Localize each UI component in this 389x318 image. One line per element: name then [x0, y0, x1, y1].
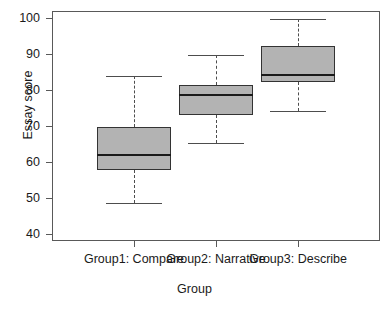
y-axis-tick [46, 18, 52, 19]
median-line [179, 94, 253, 96]
whisker-cap-upper [106, 76, 162, 77]
box-iqr-rect[interactable] [97, 127, 171, 170]
whisker-cap-lower [270, 111, 326, 112]
x-axis-tick [216, 241, 217, 247]
whisker-lower [216, 115, 217, 143]
whisker-upper [298, 19, 299, 46]
box-iqr-rect[interactable] [261, 46, 335, 82]
y-axis-tick-label: 90 [0, 47, 40, 61]
y-axis-tick-label: 100 [0, 11, 40, 25]
y-axis-tick-label: 70 [0, 119, 40, 133]
whisker-cap-upper [270, 19, 326, 20]
whisker-lower [298, 82, 299, 111]
whisker-cap-lower [188, 143, 244, 144]
y-axis-tick [46, 90, 52, 91]
median-line [97, 154, 171, 156]
whisker-lower [134, 170, 135, 203]
y-axis-tick-label: 80 [0, 83, 40, 97]
x-axis-tick [298, 241, 299, 247]
y-axis-tick-label: 40 [0, 227, 40, 241]
median-line [261, 74, 335, 76]
y-axis-tick [46, 54, 52, 55]
whisker-cap-upper [188, 55, 244, 56]
whisker-cap-lower [106, 203, 162, 204]
whisker-upper [134, 76, 135, 126]
y-axis-tick-label: 50 [0, 191, 40, 205]
y-axis-tick [46, 162, 52, 163]
x-axis-title: Group [0, 282, 389, 296]
y-axis-tick [46, 126, 52, 127]
y-axis-tick [46, 234, 52, 235]
x-axis-tick [134, 241, 135, 247]
y-axis-tick-label: 60 [0, 155, 40, 169]
x-axis-tick-label: Group3: Describe [233, 252, 363, 266]
whisker-upper [216, 55, 217, 86]
chart-page: Essay score Group 405060708090100 Group1… [0, 0, 389, 318]
box-iqr-rect[interactable] [179, 85, 253, 114]
y-axis-tick [46, 198, 52, 199]
